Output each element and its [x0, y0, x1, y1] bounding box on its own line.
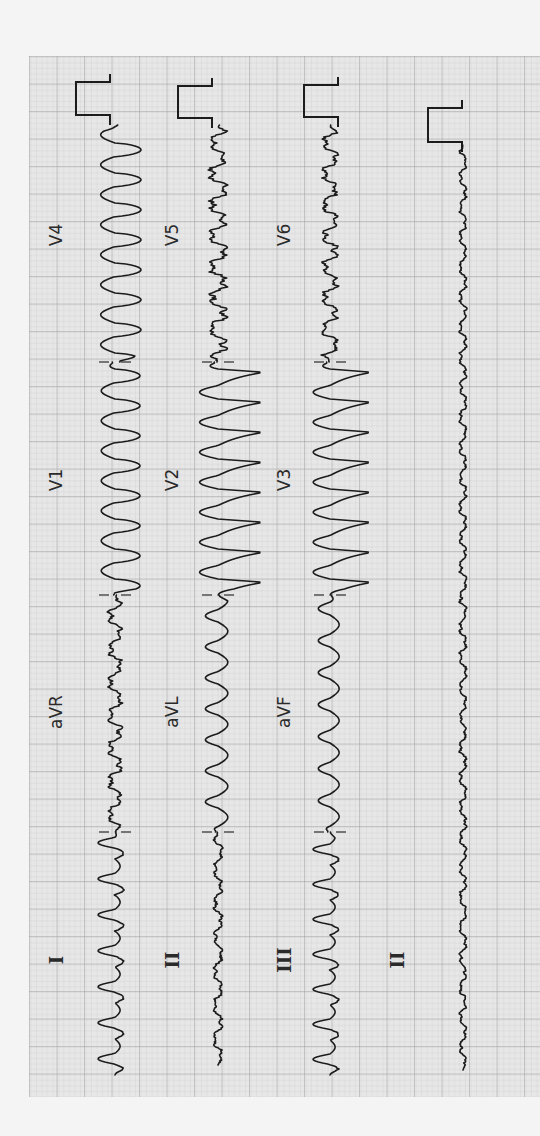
lead-label-v4: V4	[46, 224, 66, 246]
lead-label-i: I	[46, 956, 67, 964]
lead-label-avr: aVR	[46, 695, 66, 729]
lead-label-v3: V3	[274, 469, 294, 491]
lead-label-ii: II	[387, 952, 408, 969]
lead-label-ii: II	[162, 952, 183, 969]
lead-label-iii: III	[274, 947, 295, 972]
grid-paper	[29, 56, 540, 1097]
lead-label-avl: aVL	[162, 696, 182, 728]
lead-label-v6: V6	[274, 224, 294, 246]
lead-label-v5: V5	[162, 224, 182, 246]
ecg-sheet: IaVRV1V4IIaVLV2V5IIIaVFV3V6II	[0, 0, 540, 1136]
lead-label-avf: aVF	[274, 696, 294, 728]
lead-label-v1: V1	[46, 469, 66, 491]
lead-label-v2: V2	[162, 469, 182, 491]
